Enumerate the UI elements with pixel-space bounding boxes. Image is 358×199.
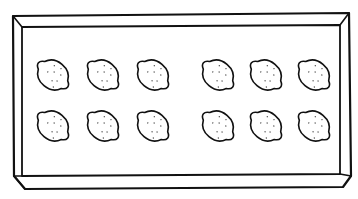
lemon-outline bbox=[290, 103, 337, 149]
lemon-icon bbox=[290, 52, 337, 98]
lemon-outline bbox=[29, 103, 76, 149]
tray bbox=[13, 13, 351, 189]
lemon-tray-illustration bbox=[0, 0, 358, 199]
lemon-icon bbox=[194, 103, 241, 149]
tray-corner-top-right bbox=[340, 13, 349, 25]
tray-corner-bottom-right bbox=[340, 174, 351, 176]
tray-front-lip bbox=[14, 176, 25, 189]
lemon-icon bbox=[242, 52, 289, 98]
lemon-icon bbox=[79, 52, 126, 98]
lemon-outline bbox=[79, 52, 126, 98]
lemon-icon bbox=[129, 52, 176, 98]
lemon-icon bbox=[129, 103, 176, 149]
lemon-outline bbox=[79, 103, 126, 149]
lemon-outline bbox=[129, 103, 176, 149]
lemon-outline bbox=[194, 103, 241, 149]
lemon-outline bbox=[194, 52, 241, 98]
lemon-icon bbox=[290, 103, 337, 149]
lemon-icon bbox=[194, 52, 241, 98]
tray-corner-top-left bbox=[13, 16, 22, 27]
lemon-icon bbox=[29, 103, 76, 149]
lemon-icon bbox=[242, 103, 289, 149]
lemon-outline bbox=[290, 52, 337, 98]
lemon-grid bbox=[29, 52, 337, 149]
lemon-outline bbox=[29, 52, 76, 98]
lemon-outline bbox=[242, 103, 289, 149]
lemon-icon bbox=[29, 52, 76, 98]
lemon-outline bbox=[129, 52, 176, 98]
tray-outer-rim bbox=[13, 13, 351, 189]
lemon-outline bbox=[242, 52, 289, 98]
lemon-icon bbox=[79, 103, 126, 149]
tray-inner-floor bbox=[22, 25, 340, 176]
